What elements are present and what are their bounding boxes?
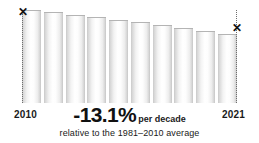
start-x-marker: ✕ (17, 7, 28, 18)
bar (196, 31, 215, 103)
baseline-note: relative to the 1981–2010 average (0, 128, 259, 138)
trend-value: -13.1% (73, 103, 136, 126)
trend-headline: -13.1%per decade (0, 104, 259, 125)
bar-series (22, 10, 237, 103)
start-guide-line (22, 10, 23, 103)
end-x-marker: ✕ (231, 23, 242, 34)
sea-ice-trend-chart: ✕ ✕ 2010 2021 -13.1%per decade relative … (0, 0, 259, 143)
trend-annotation: -13.1%per decade relative to the 1981–20… (0, 104, 259, 138)
bar (218, 34, 237, 103)
bar (87, 17, 106, 103)
bar (44, 12, 63, 103)
bar (174, 28, 193, 103)
bar (66, 15, 85, 103)
bar (109, 20, 128, 103)
plot-area (22, 10, 237, 103)
trend-unit: per decade (138, 114, 186, 124)
bar (153, 25, 172, 103)
bar (22, 10, 41, 103)
bar (131, 22, 150, 103)
